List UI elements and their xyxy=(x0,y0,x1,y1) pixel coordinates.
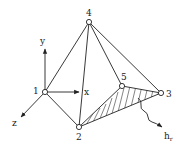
z-axis-label: z xyxy=(12,118,17,128)
node-label-2: 2 xyxy=(76,132,82,142)
edge-2-4 xyxy=(79,22,89,127)
node-2 xyxy=(76,124,81,129)
node-3 xyxy=(158,90,163,95)
edge-1-4 xyxy=(45,22,89,92)
hatched-face xyxy=(84,86,160,128)
flux-arrow: hr xyxy=(138,98,173,142)
node-label-5: 5 xyxy=(121,72,127,82)
node-label-3: 3 xyxy=(166,89,172,99)
node-4 xyxy=(86,19,91,24)
edge-2-3 xyxy=(79,93,161,127)
flux-label: hr xyxy=(164,131,173,142)
coordinate-axes: y x z xyxy=(12,36,89,128)
node-label-1: 1 xyxy=(33,86,39,96)
x-axis-label: x xyxy=(84,87,89,97)
tetrahedron-diagram: y x z hr 1 2 3 4 5 xyxy=(0,0,186,148)
node-5 xyxy=(119,83,124,88)
edge-4-3 xyxy=(89,22,161,93)
edge-1-2 xyxy=(45,92,79,127)
edge-4-5 xyxy=(89,22,122,86)
y-axis-label: y xyxy=(39,36,46,46)
node-label-4: 4 xyxy=(86,8,92,18)
node-1 xyxy=(42,89,47,94)
